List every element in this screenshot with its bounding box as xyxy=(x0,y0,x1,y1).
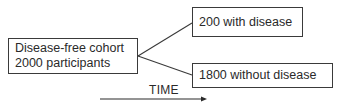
node-cohort-line-1: Disease-free cohort xyxy=(15,41,137,56)
time-axis-label: TIME xyxy=(149,83,179,97)
node-without-disease-label: 1800 without disease xyxy=(199,68,332,83)
edge-cohort-to-without-disease xyxy=(138,56,192,75)
node-disease-free-cohort: Disease-free cohort 2000 participants xyxy=(8,38,138,74)
edge-cohort-to-with-disease xyxy=(138,23,192,56)
time-arrow-head-icon xyxy=(201,97,207,102)
node-with-disease: 200 with disease xyxy=(192,7,303,37)
node-without-disease: 1800 without disease xyxy=(192,63,333,88)
node-cohort-line-2: 2000 participants xyxy=(15,56,137,71)
node-with-disease-label: 200 with disease xyxy=(199,15,302,30)
